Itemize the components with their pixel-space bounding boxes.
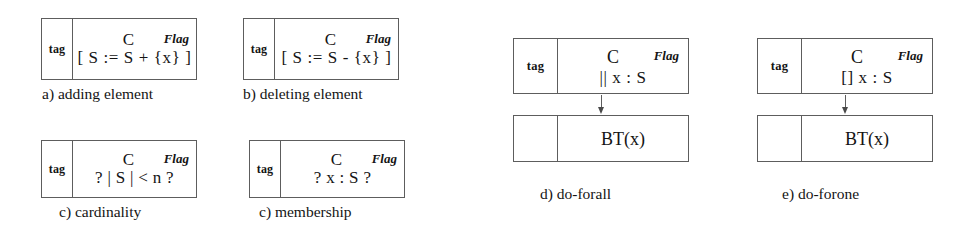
figure-adding-element: tag C Flag [ S := S + {x} ] a) adding el… — [41, 18, 216, 108]
behavior-node-box: tag C Flag [ S := S - {x} ] — [243, 18, 399, 80]
flag-label: Flag — [164, 32, 189, 45]
tag-label: tag — [49, 43, 66, 55]
node-expression: [] x : S — [802, 69, 932, 88]
figure-do-forone: tag C Flag [] x : S BT(x) e) do-forone — [757, 38, 957, 213]
node-header: C Flag — [73, 150, 196, 169]
behavior-node-box: tag C Flag || x : S — [513, 38, 689, 94]
child-tag-cell — [758, 116, 802, 161]
behavior-child-node-box: BT(x) — [757, 115, 933, 162]
flag-label: Flag — [654, 49, 679, 62]
behavior-node-box: tag C Flag [ S := S + {x} ] — [41, 18, 197, 80]
tag-cell: tag — [42, 141, 73, 197]
component-label: C — [851, 48, 863, 66]
node-body: C Flag [ S := S - {x} ] — [275, 19, 398, 79]
component-label: C — [331, 151, 342, 168]
node-expression: || x : S — [558, 69, 688, 88]
figure-caption: b) deleting element — [243, 86, 363, 102]
down-arrow-icon — [597, 95, 606, 114]
down-arrow-icon — [841, 95, 850, 114]
figure-caption: e) do-forone — [782, 186, 859, 202]
flag-label: Flag — [164, 152, 189, 165]
node-body: C Flag ? | S | < n ? — [73, 141, 196, 197]
tag-label: tag — [771, 60, 788, 73]
tag-cell: tag — [250, 141, 281, 197]
node-header: C Flag — [281, 150, 404, 169]
child-node-body: BT(x) — [802, 116, 932, 161]
figure-caption: c) cardinality — [59, 204, 141, 220]
child-tag-cell — [514, 116, 558, 161]
flag-label: Flag — [366, 32, 391, 45]
tag-label: tag — [49, 163, 66, 175]
tag-cell: tag — [514, 39, 558, 93]
figure-do-forall: tag C Flag || x : S BT(x) d) do-forall — [513, 38, 713, 213]
node-body: C Flag || x : S — [558, 39, 688, 93]
behavior-child-node-box: BT(x) — [513, 115, 689, 162]
arrow-head — [598, 107, 604, 114]
figure-caption: a) adding element — [42, 86, 153, 102]
node-header: C Flag — [275, 30, 398, 49]
node-expression: [ S := S - {x} ] — [275, 49, 398, 68]
figure-cardinality: tag C Flag ? | S | < n ? c) cardinality — [41, 140, 216, 230]
tag-label: tag — [527, 60, 544, 73]
node-expression: [ S := S + {x} ] — [73, 49, 196, 68]
node-expression: ? x : S ? — [281, 169, 404, 188]
tag-cell: tag — [244, 19, 275, 79]
flag-label: Flag — [372, 152, 397, 165]
child-node-expression: BT(x) — [802, 130, 932, 148]
node-header: C Flag — [73, 30, 196, 49]
figure-caption: d) do-forall — [540, 186, 611, 202]
node-body: C Flag [ S := S + {x} ] — [73, 19, 196, 79]
tag-label: tag — [251, 43, 268, 55]
child-node-expression: BT(x) — [558, 130, 688, 148]
component-label: C — [325, 31, 336, 48]
figure-membership: tag C Flag ? x : S ? c) membership — [249, 140, 429, 230]
node-header: C Flag — [558, 45, 688, 69]
node-body: C Flag ? x : S ? — [281, 141, 404, 197]
child-node-body: BT(x) — [558, 116, 688, 161]
component-label: C — [607, 48, 619, 66]
behavior-node-box: tag C Flag ? | S | < n ? — [41, 140, 197, 198]
arrow-head — [842, 107, 848, 114]
figure-deleting-element: tag C Flag [ S := S - {x} ] b) deleting … — [243, 18, 423, 108]
behavior-node-box: tag C Flag ? x : S ? — [249, 140, 405, 198]
component-label: C — [123, 151, 134, 168]
tag-cell: tag — [42, 19, 73, 79]
component-label: C — [123, 31, 134, 48]
behavior-node-box: tag C Flag [] x : S — [757, 38, 933, 94]
node-body: C Flag [] x : S — [802, 39, 932, 93]
figure-caption: c) membership — [259, 204, 352, 220]
node-expression: ? | S | < n ? — [73, 169, 196, 188]
flag-label: Flag — [898, 49, 923, 62]
tag-cell: tag — [758, 39, 802, 93]
tag-label: tag — [257, 163, 274, 175]
node-header: C Flag — [802, 45, 932, 69]
